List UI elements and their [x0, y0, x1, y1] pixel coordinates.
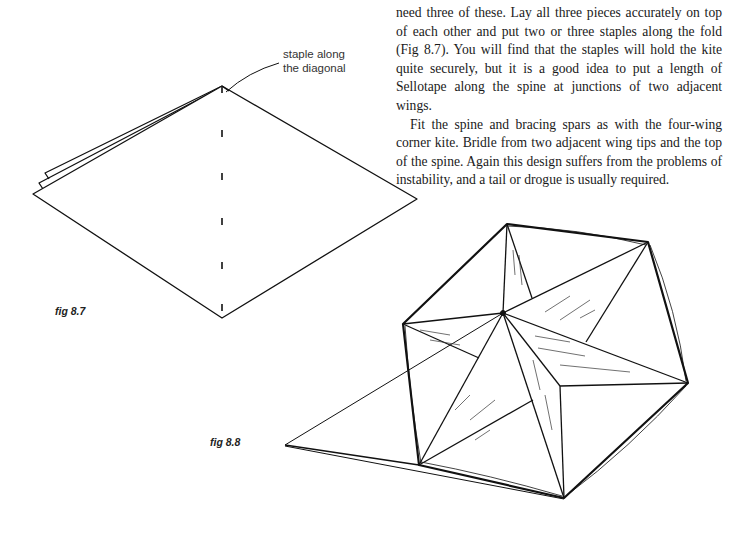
front-sheet	[33, 86, 417, 318]
fig-8-8-diagram	[285, 224, 688, 499]
center-hub	[501, 311, 506, 316]
book-page: need three of these. Lay all three piece…	[0, 0, 730, 538]
fig-8-7-diagram	[0, 0, 730, 538]
callout-leader	[226, 63, 279, 92]
